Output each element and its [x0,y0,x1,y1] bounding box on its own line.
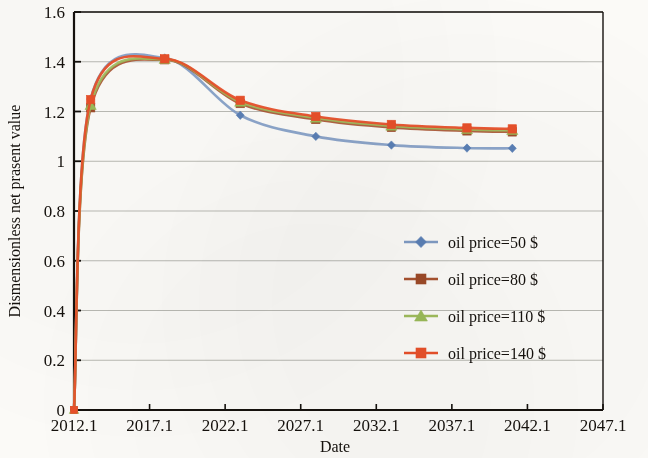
diamond-marker [416,236,427,247]
y-tick-label: 0.2 [44,351,65,370]
square-marker [508,125,516,133]
square-marker [160,55,168,63]
x-tick-label: 2032.1 [353,416,400,435]
diamond-marker [312,132,320,140]
square-marker [416,274,426,284]
y-tick-label: 1.2 [44,103,65,122]
y-axis-tick-labels: 00.20.40.60.811.21.41.6 [44,3,66,420]
x-tick-label: 2037.1 [428,416,475,435]
chart-figure: 2012.12017.12022.12027.12032.12037.12042… [0,0,648,458]
y-tick-label: 0.8 [44,202,65,221]
y-tick-label: 0 [57,401,66,420]
diamond-marker [463,144,471,152]
diamond-marker [508,144,516,152]
x-tick-label: 2047.1 [580,416,627,435]
square-marker [416,348,426,358]
series-line [74,54,512,410]
x-axis-tick-labels: 2012.12017.12022.12027.12032.12037.12042… [51,416,627,435]
x-axis-title: Date [320,438,350,455]
y-tick-label: 1.6 [44,3,65,22]
legend-label: oil price=140 $ [448,345,546,363]
x-tick-label: 2027.1 [277,416,324,435]
x-tick-label: 2042.1 [504,416,551,435]
chart-legend: oil price=50 $oil price=80 $oil price=11… [404,234,546,363]
y-tick-label: 1.4 [44,53,66,72]
legend-entry[interactable]: oil price=50 $ [404,234,538,252]
y-axis-title: Dismensionless net prasent value [6,105,24,318]
x-tick-label: 2017.1 [126,416,173,435]
square-marker [312,112,320,120]
legend-entry[interactable]: oil price=80 $ [404,271,538,289]
square-marker [71,407,78,414]
line-chart: 2012.12017.12022.12027.12032.12037.12042… [0,0,648,458]
series-line [74,56,512,410]
diamond-marker [387,141,395,149]
square-marker [463,124,471,132]
square-marker [86,95,94,103]
y-tick-label: 1 [57,152,66,171]
square-marker [387,120,395,128]
y-tick-label: 0.6 [44,252,65,271]
legend-label: oil price=110 $ [448,308,545,326]
square-marker [236,96,244,104]
x-tick-label: 2022.1 [202,416,249,435]
legend-label: oil price=50 $ [448,234,538,252]
legend-label: oil price=80 $ [448,271,538,289]
y-tick-label: 0.4 [44,302,66,321]
